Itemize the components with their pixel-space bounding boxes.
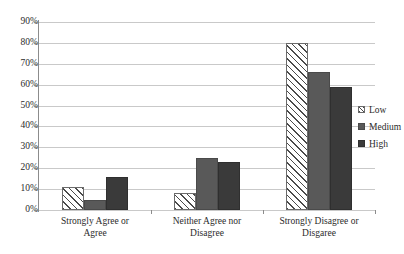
bar-group	[174, 22, 240, 210]
legend-label: Medium	[369, 122, 401, 132]
bar-group	[286, 22, 352, 210]
y-axis-tick-mark	[34, 106, 38, 107]
bar-high	[218, 162, 240, 210]
legend-label: Low	[369, 105, 386, 115]
bar-chart: 0%10%20%30%40%50%60%70%80%90% Strongly A…	[0, 0, 404, 254]
y-axis-tick-label: 50%	[4, 101, 38, 111]
y-axis-tick-mark	[34, 126, 38, 127]
plot-area	[39, 22, 375, 210]
bar-medium	[308, 72, 330, 210]
x-axis-tick-mark	[375, 210, 376, 214]
y-axis-tick-mark	[34, 43, 38, 44]
y-axis-tick-label: 80%	[4, 38, 38, 48]
y-axis-tick-mark	[34, 147, 38, 148]
y-axis-tick-label: 70%	[4, 59, 38, 69]
bar-low	[62, 187, 84, 210]
y-axis-tick-mark	[34, 210, 38, 211]
x-axis-tick-mark	[151, 210, 152, 214]
bar-high	[106, 177, 128, 210]
x-axis-label-line: Agree	[31, 228, 159, 240]
gridline	[39, 210, 375, 211]
bar-high	[330, 87, 352, 210]
legend-label: High	[369, 139, 388, 149]
y-axis-tick-label: 0%	[4, 205, 38, 215]
y-axis-tick-mark	[34, 64, 38, 65]
y-axis-tick-label: 40%	[4, 121, 38, 131]
legend-item-high[interactable]: High	[358, 135, 404, 152]
y-axis-tick-mark	[34, 85, 38, 86]
x-axis-label-line: Neither Agree nor	[143, 216, 271, 228]
y-axis-tick-label: 60%	[4, 80, 38, 90]
bar-medium	[84, 200, 106, 210]
bar-low	[286, 43, 308, 210]
y-axis-tick-label: 90%	[4, 17, 38, 27]
y-axis-tick-mark	[34, 189, 38, 190]
x-axis-category-label: Neither Agree norDisagree	[143, 216, 271, 239]
chart-legend: LowMediumHigh	[358, 101, 404, 152]
y-axis-tick-mark	[34, 22, 38, 23]
x-axis-category-label: Strongly Agree orAgree	[31, 216, 159, 239]
x-axis-label-line: Disagree	[143, 228, 271, 240]
x-axis-label-line: Disgaree	[255, 228, 383, 240]
bar-medium	[196, 158, 218, 210]
x-axis-label-line: Strongly Disagree or	[255, 216, 383, 228]
legend-swatch-high-icon	[358, 140, 365, 147]
legend-swatch-low-icon	[358, 106, 365, 113]
legend-swatch-medium-icon	[358, 123, 365, 130]
legend-item-low[interactable]: Low	[358, 101, 404, 118]
bar-group	[62, 22, 128, 210]
x-axis-label-line: Strongly Agree or	[31, 216, 159, 228]
x-axis-category-label: Strongly Disagree orDisgaree	[255, 216, 383, 239]
x-axis-tick-mark	[263, 210, 264, 214]
y-axis-tick-label: 20%	[4, 163, 38, 173]
y-axis-tick-label: 30%	[4, 142, 38, 152]
bar-low	[174, 193, 196, 210]
y-axis-tick-label: 10%	[4, 184, 38, 194]
legend-item-medium[interactable]: Medium	[358, 118, 404, 135]
y-axis-tick-mark	[34, 168, 38, 169]
